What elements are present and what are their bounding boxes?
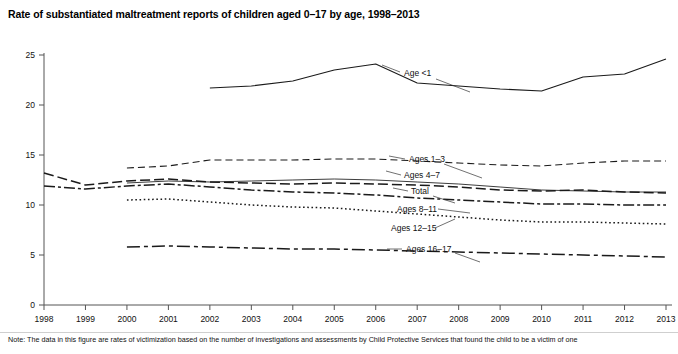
x-tick-label: 2006	[366, 314, 385, 324]
y-tick-label: 15	[26, 150, 36, 160]
label-ages-1-3: Ages 1–3	[409, 154, 445, 164]
x-tick-label: 1999	[76, 314, 95, 324]
x-tick-label: 2001	[159, 314, 178, 324]
series-age-1	[210, 59, 666, 91]
note-rule	[0, 332, 678, 333]
x-tick-label: 2004	[283, 314, 302, 324]
series-ages-8-11	[44, 184, 666, 205]
label-ages-4-7: Ages 4–7	[404, 170, 440, 180]
y-tick-label: 10	[26, 200, 36, 210]
series-total	[127, 179, 666, 192]
x-tick-label: 2012	[615, 314, 634, 324]
x-axis-ticks: 1998199920002001200220032004200520062007…	[35, 305, 676, 324]
y-axis-ticks: 0510152025	[26, 50, 44, 310]
series-ages-1-3	[127, 159, 666, 168]
figure-note: Note: The data in this figure are rates …	[8, 336, 672, 344]
x-tick-label: 2013	[657, 314, 676, 324]
x-tick-label: 2005	[325, 314, 344, 324]
label-ages-16-17: Ages 16–17	[406, 244, 452, 254]
x-tick-label: 2009	[491, 314, 510, 324]
x-tick-label: 2000	[117, 314, 136, 324]
x-tick-label: 2011	[574, 314, 593, 324]
label-total: Total	[411, 186, 429, 196]
series-ages-16-17	[127, 246, 666, 257]
y-tick-label: 20	[26, 100, 36, 110]
chart-area: 0510152025199819992000200120022003200420…	[0, 0, 678, 330]
y-tick-label: 0	[30, 300, 35, 310]
label-ages-8-11: Ages 8–11	[397, 204, 437, 214]
x-tick-label: 1998	[35, 314, 54, 324]
x-tick-label: 2008	[449, 314, 468, 324]
y-tick-label: 5	[30, 250, 35, 260]
x-tick-label: 2002	[200, 314, 219, 324]
x-tick-label: 2007	[408, 314, 427, 324]
series-annotations: Age <1Ages 1–3Ages 4–7TotalAges 8–11Ages…	[382, 65, 482, 262]
x-tick-label: 2003	[242, 314, 261, 324]
x-tick-label: 2010	[532, 314, 551, 324]
series-ages-4-7	[44, 173, 666, 193]
label-age-1: Age <1	[404, 68, 431, 78]
figure-root: Rate of substantiated maltreatment repor…	[0, 0, 678, 354]
series-lines	[44, 59, 666, 257]
label-ages-12-15: Ages 12–15	[391, 223, 437, 233]
axes	[44, 53, 672, 305]
chart-svg: 0510152025199819992000200120022003200420…	[0, 0, 678, 330]
y-tick-label: 25	[26, 50, 36, 60]
